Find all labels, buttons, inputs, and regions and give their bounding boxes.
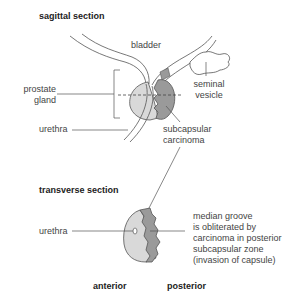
seminal-vesicle-label: seminal vesicle: [186, 79, 232, 101]
transverse-title: transverse section: [39, 185, 119, 196]
prostate-gland-label: prostate gland: [12, 84, 56, 106]
posterior-label: posterior: [167, 281, 206, 292]
prostate-bracket: [114, 70, 120, 118]
anterior-label: anterior: [93, 281, 127, 292]
median-groove-note: median groove is obliterated by carcinom…: [193, 211, 282, 266]
sagittal-title: sagittal section: [39, 11, 105, 22]
urethra-transverse: [133, 228, 137, 234]
urethra-label-transverse: urethra: [39, 226, 68, 237]
urethra-label-sagittal: urethra: [39, 124, 68, 135]
bladder-label: bladder: [131, 40, 161, 51]
seminal-vesicle: [190, 52, 230, 75]
subcapsular-carcinoma-label: subcapsular carcinoma: [163, 124, 212, 146]
